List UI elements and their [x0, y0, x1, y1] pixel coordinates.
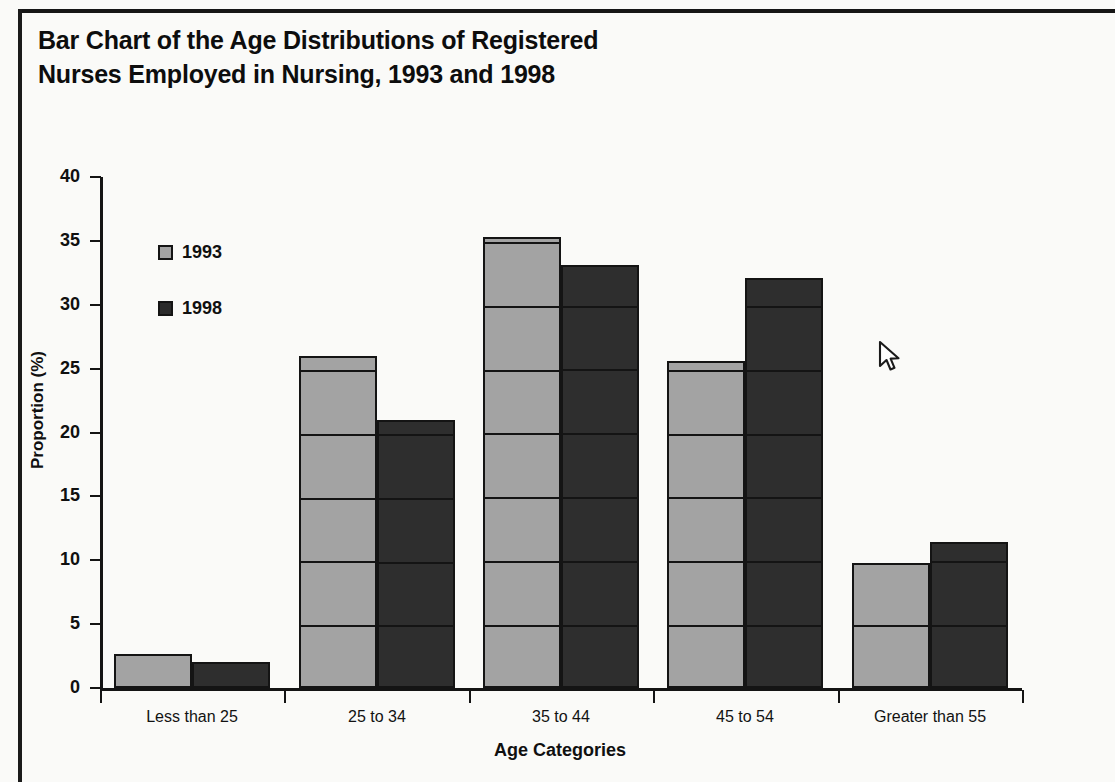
bar-gridline [483, 242, 561, 244]
y-axis-tick [90, 559, 101, 561]
y-axis-tick [90, 176, 101, 178]
bar-gridline [377, 562, 455, 564]
bar-gridline [483, 561, 561, 563]
x-axis-tick [838, 690, 840, 703]
x-axis-tick-label: Greater than 55 [830, 708, 1030, 726]
bar-gridline [483, 370, 561, 372]
bar-gridline [745, 561, 823, 563]
y-axis-line [100, 177, 103, 690]
bar-1998-45-to-54 [745, 278, 823, 688]
bar-1998-25-to-34 [377, 420, 455, 688]
x-axis-end-tick [1022, 690, 1024, 703]
x-axis-tick [653, 690, 655, 703]
x-axis-tick-label: 45 to 54 [645, 708, 845, 726]
y-axis-tick [90, 240, 101, 242]
bar-gridline [561, 561, 639, 563]
bar-gridline [667, 625, 745, 627]
bar-gridline [745, 306, 823, 308]
x-axis-tick-label: 35 to 44 [461, 708, 661, 726]
y-axis-tick [90, 304, 101, 306]
y-axis-tick [90, 432, 101, 434]
bar-1993-35-to-44 [483, 237, 561, 688]
bar-gridline [561, 497, 639, 499]
bar-gridline [667, 561, 745, 563]
scanned-page: Bar Chart of the Age Distributions of Re… [0, 0, 1115, 782]
bar-gridline [483, 306, 561, 308]
y-axis-title: Proportion (%) [28, 310, 48, 510]
bar-gridline [745, 370, 823, 372]
y-axis-tick-label: 40 [40, 166, 80, 187]
x-axis-title: Age Categories [360, 740, 760, 761]
bar-1993-less-than-25 [114, 654, 192, 688]
legend-swatch-icon-1998 [158, 301, 173, 316]
bar-gridline [667, 497, 745, 499]
bar-gridline [377, 625, 455, 627]
bar-gridline [483, 497, 561, 499]
plot-area: 0510152025303540 Less than 2525 to 3435 … [0, 0, 1115, 782]
bar-gridline [483, 433, 561, 435]
bar-gridline [299, 561, 377, 563]
bar-gridline [377, 498, 455, 500]
bar-gridline [745, 497, 823, 499]
y-axis-tick [90, 623, 101, 625]
bar-gridline [561, 433, 639, 435]
x-axis-end-tick [100, 690, 102, 703]
bar-gridline [299, 625, 377, 627]
legend-label-1993: 1993 [182, 242, 222, 263]
bar-gridline [299, 434, 377, 436]
bar-1998-greater-than-55 [930, 542, 1008, 688]
bar-gridline [299, 498, 377, 500]
y-axis-tick-label: 0 [40, 677, 80, 698]
bar-gridline [930, 561, 1008, 563]
bar-1998-less-than-25 [192, 662, 270, 688]
x-axis-tick [284, 690, 286, 703]
chart-legend: 1993 1998 [158, 241, 288, 353]
legend-item-1998: 1998 [158, 297, 288, 319]
bar-gridline [667, 370, 745, 372]
bar-gridline [930, 625, 1008, 627]
bar-1993-greater-than-55 [852, 563, 930, 688]
bar-gridline [299, 370, 377, 372]
bar-1993-45-to-54 [667, 361, 745, 688]
y-axis-tick-label: 35 [40, 230, 80, 251]
legend-swatch-icon-1993 [158, 245, 173, 260]
y-axis-tick [90, 495, 101, 497]
x-axis-line [100, 688, 1022, 691]
bar-gridline [561, 369, 639, 371]
bar-gridline [667, 434, 745, 436]
x-axis-tick-label: Less than 25 [92, 708, 292, 726]
bar-1993-25-to-34 [299, 356, 377, 688]
bar-gridline [561, 625, 639, 627]
bar-gridline [745, 625, 823, 627]
y-axis-tick [90, 687, 101, 689]
bar-gridline [377, 434, 455, 436]
bar-gridline [852, 625, 930, 627]
arrow-pointer-icon [877, 340, 903, 374]
legend-item-1993: 1993 [158, 241, 288, 263]
y-axis-tick [90, 368, 101, 370]
legend-label-1998: 1998 [182, 298, 222, 319]
bar-gridline [561, 306, 639, 308]
x-axis-tick [469, 690, 471, 703]
bar-gridline [745, 434, 823, 436]
bar-gridline [483, 625, 561, 627]
x-axis-tick-label: 25 to 34 [277, 708, 477, 726]
y-axis-tick-label: 5 [40, 613, 80, 634]
bar-1998-35-to-44 [561, 265, 639, 688]
y-axis-tick-label: 10 [40, 549, 80, 570]
